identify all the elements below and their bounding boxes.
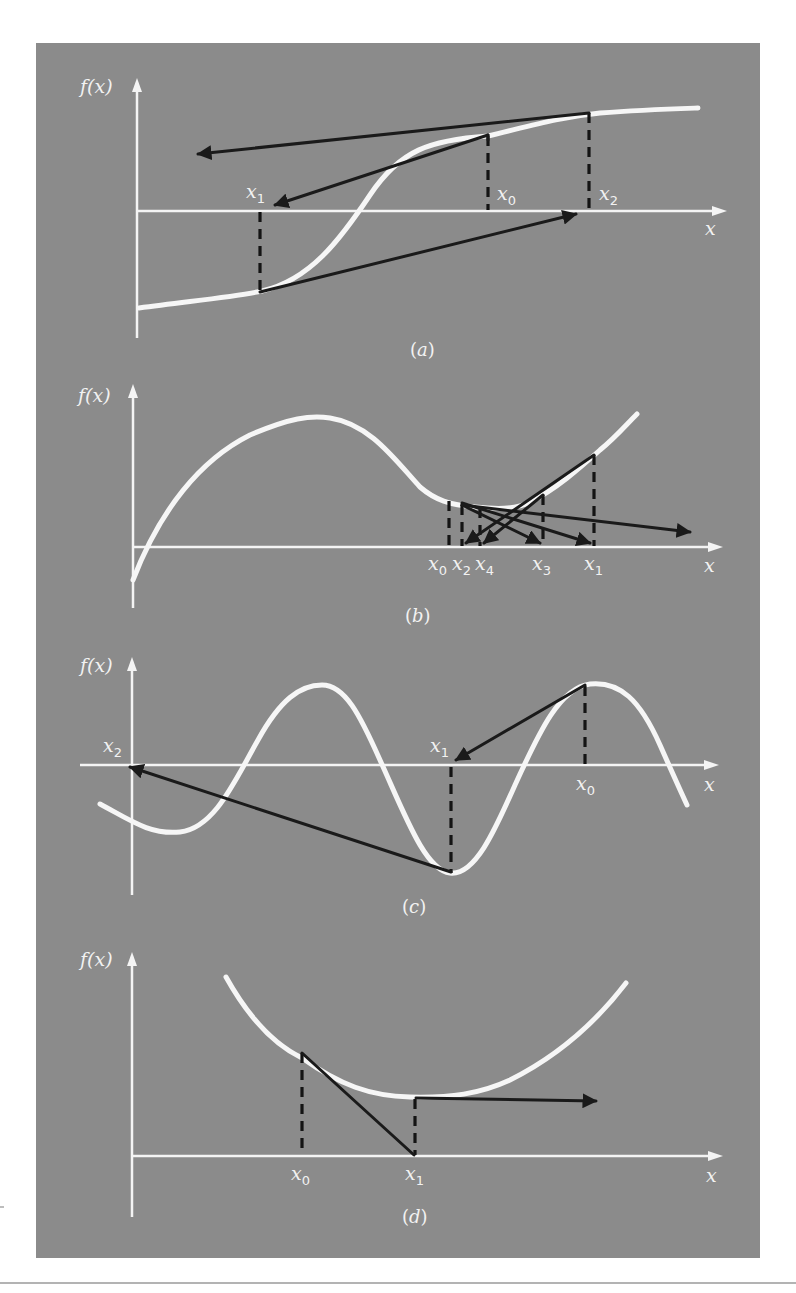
y-axis-label: f(x) [78,75,113,97]
panel-caption-c: (c) [402,896,426,917]
y-axis-label: f(x) [76,384,111,406]
x-axis-label: x [704,773,715,795]
newton-raphson-pitfalls-figure: f(x) x x1 x0 x2 (a) f(x) x [0,0,796,1293]
x-axis-label: x [705,217,716,239]
figure-background [36,43,760,1258]
x-axis-label: x [704,554,715,576]
panel-caption-b: (b) [405,605,431,626]
panel-caption-d: (d) [402,1206,428,1227]
y-axis-label: f(x) [78,654,113,676]
panel-caption-a: (a) [410,339,435,360]
x-axis-label: x [706,1164,717,1186]
y-axis-label: f(x) [78,948,113,970]
